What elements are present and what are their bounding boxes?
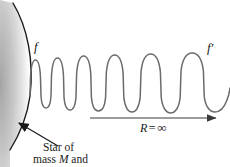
caption-line-mass: mass M and [33, 154, 88, 166]
figure-canvas [0, 0, 230, 167]
star-body [0, 0, 31, 167]
gravitational-redshift-figure: f f′ R=∞ Star of mass M and [0, 0, 230, 167]
distance-symbol: R [140, 121, 149, 135]
caption-line-star: Star of [43, 142, 74, 154]
star-fill [0, 0, 31, 167]
caption-mass-prefix: mass [33, 153, 59, 165]
caption-mass-suffix: and [68, 153, 87, 165]
distance-label: R=∞ [140, 121, 168, 134]
equals-sign: = [149, 121, 157, 135]
emitted-frequency-label: f [34, 40, 38, 53]
observed-frequency-label: f′ [207, 41, 213, 54]
light-wave [30, 53, 230, 113]
infinity-symbol: ∞ [157, 120, 168, 135]
